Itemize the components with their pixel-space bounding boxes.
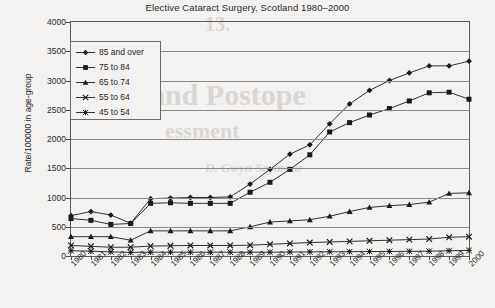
gridline — [71, 139, 469, 140]
data-point-square — [248, 190, 253, 195]
data-point-asterisk — [148, 249, 154, 255]
legend-label: 75 to 84 — [99, 63, 130, 72]
data-point-square — [83, 65, 88, 70]
data-point-asterisk — [367, 249, 373, 255]
data-point-square — [347, 120, 352, 125]
legend-marker-cross-icon — [76, 93, 95, 102]
legend-label: 85 and over — [99, 48, 144, 57]
y-tick — [66, 227, 70, 228]
data-point-square — [467, 97, 472, 102]
line-chart: Elective Cataract Surgery, Scotland 1980… — [0, 0, 495, 308]
legend-marker-asterisk-icon — [76, 108, 95, 117]
data-point-asterisk — [446, 248, 452, 254]
y-tick — [66, 139, 70, 140]
data-point-square — [128, 221, 133, 226]
data-point-asterisk — [407, 249, 413, 255]
y-tick-label: 1500 — [47, 163, 66, 173]
y-tick-label: 500 — [52, 222, 66, 232]
data-point-square — [168, 200, 173, 205]
legend-item-3[interactable]: 55 to 64 — [76, 90, 160, 105]
data-point-asterisk — [68, 248, 74, 254]
legend-item-0[interactable]: 85 and over — [76, 45, 160, 60]
data-point-asterisk — [227, 249, 233, 255]
legend-marker-square-icon — [76, 63, 95, 72]
data-point-square — [208, 201, 213, 206]
data-point-asterisk — [327, 249, 333, 255]
y-tick-label: 4000 — [47, 17, 66, 27]
y-tick-label: 3000 — [47, 76, 66, 86]
y-tick-label: 2000 — [47, 134, 66, 144]
data-point-square — [327, 129, 332, 134]
data-point-square — [69, 216, 74, 221]
y-tick — [66, 168, 70, 169]
legend-item-2[interactable]: 65 to 74 — [76, 75, 160, 90]
gridline — [71, 168, 469, 169]
data-point-asterisk — [108, 249, 114, 255]
legend-item-4[interactable]: 45 to 54 — [76, 105, 160, 120]
chart-title: Elective Cataract Surgery, Scotland 1980… — [0, 2, 495, 13]
data-point-asterisk — [267, 249, 273, 255]
data-point-cross — [83, 95, 88, 100]
data-point-asterisk — [287, 249, 293, 255]
data-point-square — [88, 218, 93, 223]
data-point-asterisk — [128, 250, 134, 256]
data-point-asterisk — [347, 249, 353, 255]
data-point-diamond — [406, 70, 412, 76]
legend-label: 65 to 74 — [99, 78, 130, 87]
y-tick-label: 1000 — [47, 193, 66, 203]
data-point-asterisk — [247, 249, 253, 255]
y-axis-label: Rate/100000 in age-group — [23, 48, 33, 198]
data-point-diamond — [466, 58, 472, 64]
data-point-asterisk — [307, 249, 313, 255]
y-tick-label: 2500 — [47, 105, 66, 115]
data-point-square — [268, 180, 273, 185]
data-point-triangle — [83, 80, 89, 85]
y-tick-label: 0 — [61, 251, 66, 261]
legend-item-1[interactable]: 75 to 84 — [76, 60, 160, 75]
data-point-diamond — [83, 50, 89, 56]
data-point-triangle — [426, 199, 432, 204]
data-point-diamond — [446, 63, 452, 69]
legend-marker-diamond-icon — [76, 48, 95, 57]
data-point-asterisk — [83, 110, 88, 115]
data-point-square — [427, 90, 432, 95]
data-point-asterisk — [426, 248, 432, 254]
series-line — [71, 193, 469, 240]
data-point-asterisk — [466, 248, 472, 254]
data-point-diamond — [108, 212, 114, 218]
data-point-square — [407, 98, 412, 103]
data-point-square — [228, 201, 233, 206]
legend-label: 45 to 54 — [99, 108, 130, 117]
data-point-diamond — [367, 88, 373, 94]
y-tick — [66, 256, 70, 257]
gridline — [71, 227, 469, 228]
data-point-square — [447, 90, 452, 95]
data-point-square — [367, 113, 372, 118]
data-point-diamond — [88, 209, 94, 215]
y-tick — [66, 22, 70, 23]
data-point-asterisk — [168, 249, 174, 255]
data-point-asterisk — [88, 248, 94, 254]
y-tick — [66, 198, 70, 199]
data-point-square — [188, 201, 193, 206]
gridline — [71, 198, 469, 199]
data-point-diamond — [426, 63, 432, 69]
data-point-asterisk — [387, 249, 393, 255]
legend-label: 55 to 64 — [99, 93, 130, 102]
data-point-square — [148, 201, 153, 206]
data-point-asterisk — [208, 249, 214, 255]
y-tick-label: 3500 — [47, 46, 66, 56]
legend-marker-triangle-icon — [76, 78, 95, 87]
data-point-square — [307, 152, 312, 157]
chart-legend[interactable]: 85 and over75 to 8465 to 7455 to 6445 to… — [70, 41, 161, 120]
data-point-asterisk — [188, 249, 194, 255]
